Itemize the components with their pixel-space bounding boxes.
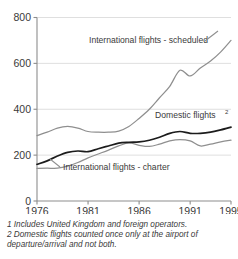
footnote-1: 1 Includes United Kingdom and foreign op…	[7, 220, 233, 230]
y-axis-ticks: 0200400600800	[13, 11, 37, 207]
series-label-domestic: Domestic flights	[155, 110, 216, 120]
y-tick-label: 600	[13, 57, 31, 69]
x-tick-label: 1995	[219, 205, 238, 214]
y-tick-label: 800	[13, 11, 31, 23]
annotation-charter: International flights - charter	[50, 159, 170, 172]
footnotes: 1 Includes United Kingdom and foreign op…	[7, 220, 233, 251]
x-tick-label: 1981	[76, 205, 100, 214]
series-lines	[37, 40, 231, 168]
annotation-domestic: Domestic flights 2	[155, 109, 229, 120]
y-tick-label: 200	[13, 149, 31, 161]
x-tick-label: 1976	[25, 205, 49, 214]
y-tick-label: 400	[13, 103, 31, 115]
series-label-charter: International flights - charter	[63, 162, 170, 172]
line-chart: 0200400600800 19761981198619911995 Inter…	[0, 0, 238, 214]
footnote-2: 2 Domestic flights counted once only at …	[7, 230, 233, 250]
x-tick-label: 1986	[127, 205, 151, 214]
x-tick-label: 1991	[178, 205, 202, 214]
annotation-scheduled: International flights - scheduled	[89, 31, 218, 45]
series-line-0	[37, 40, 231, 135]
series-label-scheduled: International flights - scheduled	[89, 35, 208, 45]
leader-line-charter	[50, 159, 60, 167]
x-axis-ticks: 19761981198619911995	[25, 201, 238, 214]
chart-figure: 0200400600800 19761981198619911995 Inter…	[0, 0, 238, 259]
series-label-domestic-superscript: 2	[225, 109, 229, 115]
